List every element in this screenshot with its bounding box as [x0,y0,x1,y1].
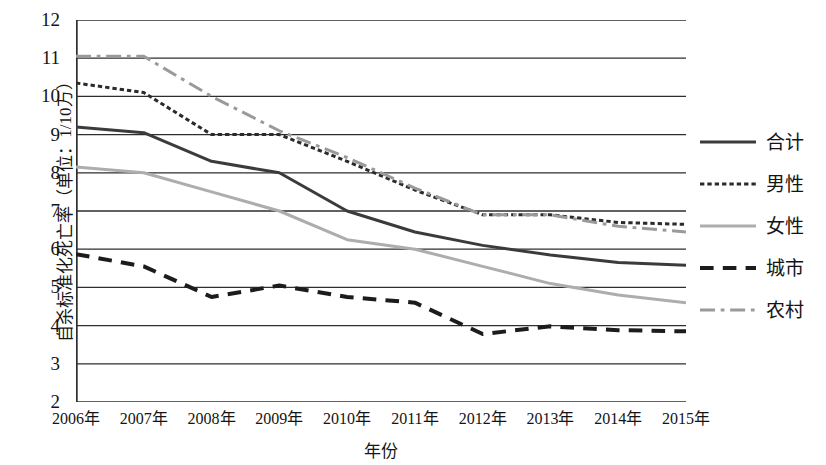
suicide-mortality-line-chart: 自杀标准化死亡率（单位：1/10万） 12111098765432 2006年2… [0,0,826,465]
y-tick-label: 10 [20,86,60,105]
series-line-1 [76,83,686,224]
legend-line-swatch [700,219,756,233]
y-tick-label: 11 [20,48,60,67]
plot-area [76,20,686,402]
legend-item-合计[interactable]: 合计 [700,121,826,163]
series-line-2 [76,167,686,303]
legend-line-swatch [700,135,756,149]
legend-label: 农村 [766,301,804,320]
legend-label: 城市 [766,259,804,278]
y-axis-tick-labels: 12111098765432 [0,0,76,465]
legend-item-农村[interactable]: 农村 [700,289,826,331]
legend-label: 女性 [766,217,804,236]
y-tick-label: 8 [20,163,60,182]
x-tick-label: 2015年 [646,409,726,429]
legend-line-swatch [700,303,756,317]
y-tick-label: 5 [20,277,60,296]
legend-item-男性[interactable]: 男性 [700,163,826,205]
y-tick-label: 9 [20,125,60,144]
series-line-3 [76,254,686,334]
x-axis-tick-labels: 2006年2007年2008年2009年2010年2011年2012年2013年… [76,409,686,435]
y-tick-label: 12 [20,10,60,29]
x-axis-title: 年份 [76,437,686,462]
plot-svg [76,20,686,402]
legend-label: 合计 [766,133,804,152]
y-tick-label: 6 [20,239,60,258]
chart-legend: 合计男性女性城市农村 [700,121,826,331]
legend-item-女性[interactable]: 女性 [700,205,826,247]
legend-label: 男性 [766,175,804,194]
y-tick-label: 4 [20,316,60,335]
legend-line-swatch [700,177,756,191]
legend-line-swatch [700,261,756,275]
y-tick-label: 3 [20,354,60,373]
legend-item-城市[interactable]: 城市 [700,247,826,289]
y-tick-label: 7 [20,201,60,220]
